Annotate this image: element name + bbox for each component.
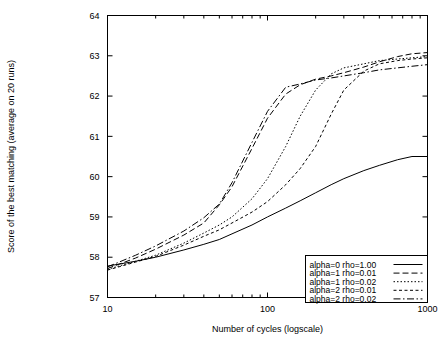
series-line-3 [108, 58, 428, 270]
y-tick-label: 57 [89, 293, 99, 303]
y-tick-label: 59 [89, 212, 99, 222]
chart-figure: 5758596061626364 101001000 Number of cyc… [0, 0, 444, 350]
y-axis-title: Score of the best matching (average on 2… [6, 60, 16, 253]
x-tick-label: 10 [102, 304, 112, 314]
x-tick-label: 1000 [417, 304, 437, 314]
chart-legend: alpha=0 rho=1.00alpha=1 rho=0.01alpha=1 … [306, 256, 428, 304]
legend-label-4: alpha=2 rho=0.02 [310, 294, 377, 304]
series-line-0 [108, 157, 428, 267]
y-tick-label: 62 [89, 91, 99, 101]
series-group [108, 53, 428, 271]
series-line-1 [108, 53, 428, 269]
series-line-2 [108, 57, 428, 270]
y-tick-label: 64 [89, 11, 99, 21]
y-tick-label: 63 [89, 51, 99, 61]
y-tick-label: 58 [89, 252, 99, 262]
x-axis-title: Number of cycles (logscale) [212, 324, 323, 334]
y-tick-label: 60 [89, 172, 99, 182]
y-tick-label: 61 [89, 132, 99, 142]
x-tick-label: 100 [260, 304, 275, 314]
line-chart: 5758596061626364 101001000 Number of cyc… [0, 0, 444, 350]
